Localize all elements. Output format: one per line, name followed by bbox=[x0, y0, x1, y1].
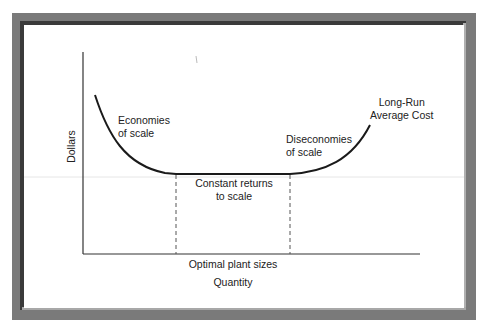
diseconomies-label-line2: of scale bbox=[286, 146, 352, 159]
curve-label-line1: Long-Run bbox=[370, 96, 433, 109]
constant-returns-label-line1: Constant returns bbox=[180, 177, 288, 190]
economies-label-line2: of scale bbox=[118, 127, 170, 140]
diseconomies-label: Diseconomies of scale bbox=[286, 133, 352, 159]
constant-returns-label-line2: to scale bbox=[180, 190, 288, 203]
curve-label-line2: Average Cost bbox=[370, 109, 433, 122]
scan-artifact-mark bbox=[196, 56, 197, 63]
optimal-plant-sizes-label: Optimal plant sizes bbox=[170, 258, 296, 271]
diseconomies-label-line1: Diseconomies bbox=[286, 133, 352, 146]
economies-label-line1: Economies bbox=[118, 114, 170, 127]
economies-label: Economies of scale bbox=[118, 114, 170, 140]
x-axis-label: Quantity bbox=[170, 276, 296, 289]
y-axis-label: Dollars bbox=[65, 122, 78, 172]
constant-returns-label: Constant returns to scale bbox=[180, 177, 288, 203]
curve-label: Long-Run Average Cost bbox=[370, 96, 433, 122]
